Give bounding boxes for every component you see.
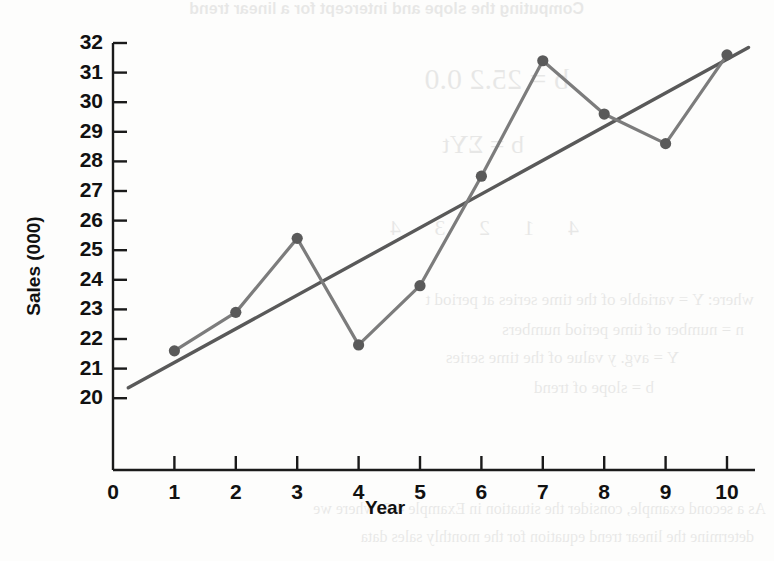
data-point-marker [169, 345, 180, 356]
x-tick-label: 1 [159, 480, 189, 504]
y-tick-label: 27 [63, 178, 103, 202]
chart-canvas [0, 0, 774, 561]
line-chart: 20212223242526272829303132 012345678910 … [0, 0, 774, 561]
data-point-markers [169, 49, 733, 356]
data-point-marker [660, 138, 671, 149]
data-point-marker [721, 49, 732, 60]
chart-series [128, 47, 748, 387]
y-tick-label: 29 [63, 119, 103, 143]
x-tick-label: 0 [98, 480, 128, 504]
y-tick-label: 30 [63, 89, 103, 113]
y-tick-label: 22 [63, 326, 103, 350]
x-tick-label: 9 [651, 480, 681, 504]
y-tick-label: 31 [63, 60, 103, 84]
data-point-marker [414, 280, 425, 291]
y-axis-ticks [113, 43, 127, 398]
x-axis-title: Year [325, 497, 445, 519]
data-point-marker [353, 339, 364, 350]
x-tick-label: 2 [221, 480, 251, 504]
y-tick-label: 28 [63, 148, 103, 172]
y-tick-label: 32 [63, 30, 103, 54]
x-tick-label: 6 [466, 480, 496, 504]
data-series-line [174, 55, 727, 351]
x-axis-ticks [174, 456, 727, 470]
data-point-marker [292, 233, 303, 244]
x-tick-label: 8 [589, 480, 619, 504]
data-point-marker [230, 307, 241, 318]
data-point-marker [476, 171, 487, 182]
y-tick-label: 21 [63, 356, 103, 380]
y-tick-label: 26 [63, 208, 103, 232]
y-tick-label: 25 [63, 237, 103, 261]
y-axis-title: Sales (000) [23, 206, 45, 326]
y-tick-label: 20 [63, 385, 103, 409]
y-tick-label: 23 [63, 296, 103, 320]
y-tick-label: 24 [63, 267, 103, 291]
x-tick-label: 10 [712, 480, 742, 504]
trend-line [128, 47, 748, 387]
x-tick-label: 7 [528, 480, 558, 504]
data-point-marker [537, 55, 548, 66]
chart-axes [113, 43, 755, 470]
x-tick-label: 3 [282, 480, 312, 504]
data-point-marker [599, 108, 610, 119]
